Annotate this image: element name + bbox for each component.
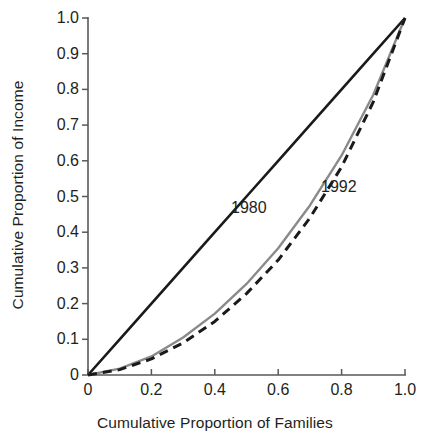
x-tick-label-0: 0 — [84, 381, 93, 399]
lorenz-curve-chart: Cumulative Proportion of Income 00.10.20… — [0, 0, 430, 448]
x-tick-label-0.4: 0.4 — [204, 381, 226, 399]
series-annotation-1980: 1980 — [231, 199, 267, 217]
x-tick-label-0.2: 0.2 — [140, 381, 162, 399]
x-axis-title: Cumulative Proportion of Families — [0, 414, 430, 432]
x-tick-label-1.0: 1.0 — [394, 381, 416, 399]
data-series-group — [88, 18, 405, 375]
x-tick-label-0.6: 0.6 — [267, 381, 289, 399]
series-annotation-1992: 1992 — [321, 178, 357, 196]
series-line-line-of-equality — [88, 18, 405, 375]
x-axis-tick-labels: 00.20.40.60.81.0 — [0, 381, 430, 411]
x-tick-label-0.8: 0.8 — [330, 381, 352, 399]
